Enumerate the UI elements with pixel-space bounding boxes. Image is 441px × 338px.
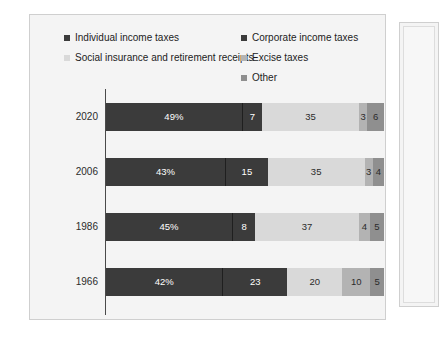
bar-segment-value: 10 — [351, 277, 362, 287]
bar-segment-value: 49% — [164, 112, 183, 122]
chart-panel: Individual income taxesSocial insurance … — [29, 14, 386, 320]
legend-swatch-icon — [64, 55, 70, 61]
legend-swatch-icon — [241, 55, 247, 61]
stacked-bar: 42%2320105 — [106, 268, 384, 296]
legend-item[interactable]: Other — [241, 69, 358, 86]
bar-segment-value: 20 — [309, 277, 320, 287]
legend-item-label: Excise taxes — [252, 52, 308, 63]
bar-segment[interactable]: 49% — [106, 103, 242, 131]
chart-legend: Individual income taxesSocial insurance … — [30, 29, 385, 85]
bar-segment-value: 42% — [155, 277, 174, 287]
legend-item[interactable]: Corporate income taxes — [241, 29, 358, 46]
bar-row-year-label: 1966 — [30, 268, 98, 296]
legend-column-right: Corporate income taxesExcise taxesOther — [241, 29, 358, 89]
bar-segment[interactable]: 3 — [359, 103, 367, 131]
bar-segment-value: 37 — [302, 222, 313, 232]
bar-row-year-label: 1986 — [30, 213, 98, 241]
bar-segment[interactable]: 20 — [287, 268, 342, 296]
bar-segment[interactable]: 5 — [370, 268, 384, 296]
bar-row-year-label: 2020 — [30, 103, 98, 131]
bar-segment[interactable]: 4 — [373, 158, 384, 186]
bar-segment[interactable]: 37 — [255, 213, 359, 241]
bar-segment[interactable]: 35 — [268, 158, 365, 186]
bar-segment-value: 43% — [156, 167, 175, 177]
bar-segment-value: 7 — [250, 112, 255, 122]
side-panel-inner — [403, 26, 435, 303]
bar-row: 200643%153534 — [30, 158, 385, 186]
stacked-bar: 43%153534 — [106, 158, 384, 186]
bar-segment[interactable]: 3 — [365, 158, 373, 186]
bar-segment-value: 8 — [241, 222, 246, 232]
bar-row: 196642%2320105 — [30, 268, 385, 296]
stacked-bar: 45%83745 — [106, 213, 384, 241]
bar-segment[interactable]: 5 — [370, 213, 384, 241]
side-panel — [399, 22, 439, 307]
bar-segment-value: 15 — [242, 167, 253, 177]
bar-segment-value: 4 — [362, 222, 367, 232]
bar-segment-value: 5 — [374, 277, 379, 287]
legend-item-label: Corporate income taxes — [252, 32, 358, 43]
bar-segment[interactable]: 6 — [367, 103, 384, 131]
legend-item-label: Social insurance and retirement receipts — [75, 52, 253, 63]
bar-row: 198645%83745 — [30, 213, 385, 241]
legend-swatch-icon — [64, 35, 70, 41]
bar-segment[interactable]: 4 — [359, 213, 370, 241]
bar-segment-value: 35 — [305, 112, 316, 122]
legend-column-left: Individual income taxesSocial insurance … — [64, 29, 253, 69]
screenshot-root: Individual income taxesSocial insurance … — [0, 0, 441, 338]
bar-segment[interactable]: 42% — [106, 268, 222, 296]
legend-item-label: Individual income taxes — [75, 32, 179, 43]
bar-segment-value: 35 — [311, 167, 322, 177]
bar-segment[interactable]: 8 — [232, 213, 255, 241]
bar-segment[interactable]: 35 — [262, 103, 359, 131]
bar-row: 202049%73536 — [30, 103, 385, 131]
bar-segment[interactable]: 15 — [225, 158, 268, 186]
bar-segment-value: 45% — [159, 222, 178, 232]
bar-segment[interactable]: 45% — [106, 213, 232, 241]
bar-segment[interactable]: 10 — [342, 268, 370, 296]
bar-segment-value: 5 — [374, 222, 379, 232]
bar-segment[interactable]: 43% — [106, 158, 225, 186]
legend-item[interactable]: Social insurance and retirement receipts — [64, 49, 253, 66]
plot-area: 202049%73536200643%153534198645%83745196… — [30, 89, 385, 321]
bar-segment[interactable]: 7 — [242, 103, 262, 131]
bar-segment-value: 4 — [376, 167, 381, 177]
legend-item[interactable]: Excise taxes — [241, 49, 358, 66]
legend-swatch-icon — [241, 75, 247, 81]
bar-segment-value: 23 — [250, 277, 261, 287]
bar-row-year-label: 2006 — [30, 158, 98, 186]
bar-segment-value: 3 — [361, 112, 366, 122]
legend-swatch-icon — [241, 35, 247, 41]
legend-item-label: Other — [252, 72, 277, 83]
bar-segment-value: 3 — [366, 167, 371, 177]
bar-segment-value: 6 — [373, 112, 378, 122]
bar-segment[interactable]: 23 — [222, 268, 287, 296]
legend-item[interactable]: Individual income taxes — [64, 29, 253, 46]
stacked-bar: 49%73536 — [106, 103, 384, 131]
